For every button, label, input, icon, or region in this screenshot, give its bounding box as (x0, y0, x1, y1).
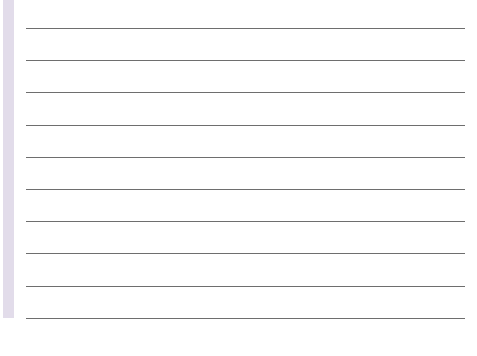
ruled-line (26, 189, 465, 190)
ruled-line (26, 221, 465, 222)
ruled-line (26, 253, 465, 254)
ruled-line (26, 125, 465, 126)
ruled-line (26, 60, 465, 61)
ruled-line (26, 157, 465, 158)
ruled-line (26, 318, 465, 319)
margin-strip (3, 0, 14, 318)
ruled-line (26, 92, 465, 93)
ruled-line (26, 286, 465, 287)
ruled-line (26, 28, 465, 29)
